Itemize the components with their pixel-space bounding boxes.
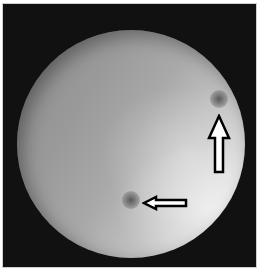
left-arrow-icon bbox=[142, 195, 188, 211]
lesion-lower-center bbox=[122, 191, 140, 209]
up-arrow-icon bbox=[207, 114, 231, 176]
image-frame bbox=[3, 4, 256, 267]
lesion-upper-right bbox=[210, 90, 228, 108]
